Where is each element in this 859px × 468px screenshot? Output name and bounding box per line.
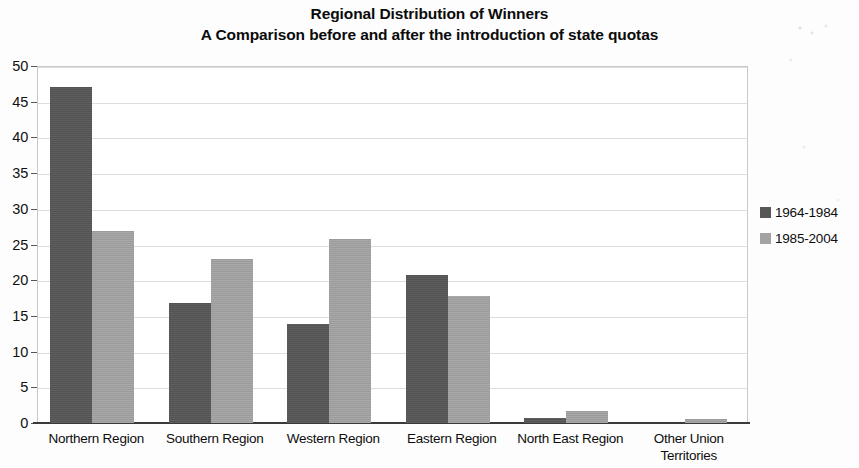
y-axis-tick-label: 45 [0,94,28,110]
bar [685,419,727,423]
chart-legend: 1964-19841985-2004 [760,205,859,257]
y-axis-tick-label: 5 [0,379,28,395]
legend-swatch-icon [760,207,771,218]
y-axis-labels: 05101520253035404550 [0,0,28,468]
bar [92,231,134,423]
y-axis-tick-label: 15 [0,308,28,324]
y-axis-tick-label: 20 [0,272,28,288]
y-axis-tick-label: 30 [0,201,28,217]
x-axis-tick-label: Other Union Territories [624,430,755,464]
legend-label: 1985-2004 [775,231,838,246]
legend-label: 1964-1984 [775,205,838,220]
legend-item: 1964-1984 [760,205,859,220]
y-axis-tick-label: 0 [0,415,28,431]
x-axis-labels: Northern RegionSouthern RegionWestern Re… [37,430,748,468]
chart-title-line-2: A Comparison before and after the introd… [0,24,859,45]
y-axis-tick-label: 40 [0,129,28,145]
bar [50,87,92,423]
y-axis-tick-label: 10 [0,344,28,360]
y-axis-tick-label: 25 [0,237,28,253]
legend-swatch-icon [760,233,771,244]
bar [406,275,448,424]
bar [566,411,608,423]
y-axis-tick-label: 50 [0,58,28,74]
bar [448,296,490,423]
chart-title: Regional Distribution of Winners A Compa… [0,3,859,46]
x-axis-tick-label: North East Region [505,430,636,447]
x-axis-tick-label: Western Region [268,430,399,447]
bar [524,418,566,423]
x-axis-tick-label: Eastern Region [387,430,518,447]
bar [287,324,329,423]
legend-item: 1985-2004 [760,231,859,246]
x-axis-tick-label: Northern Region [31,430,162,447]
bars-layer [37,66,748,423]
y-axis-tick-label: 35 [0,165,28,181]
chart-title-line-1: Regional Distribution of Winners [0,3,859,24]
bar [329,239,371,423]
bar [211,259,253,423]
x-axis-tick-label: Southern Region [150,430,281,447]
bar [169,303,211,423]
